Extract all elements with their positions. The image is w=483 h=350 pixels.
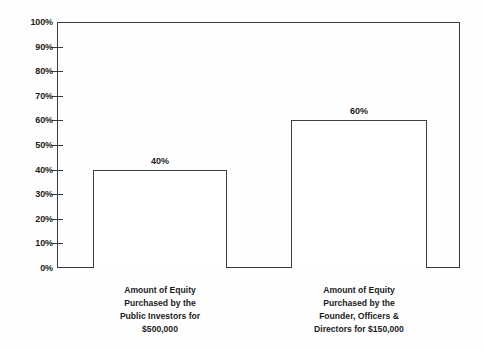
category-label-line: $500,000 [75, 323, 245, 336]
category-label: Amount of EquityPurchased by theFounder,… [273, 284, 445, 336]
category-label: Amount of EquityPurchased by thePublic I… [75, 284, 245, 336]
y-axis-tick-label: 60% [0, 116, 53, 125]
bar [93, 170, 227, 268]
category-label-line: Amount of Equity [273, 284, 445, 297]
y-axis-tick-label: 80% [0, 67, 53, 76]
y-axis-tick-labels: 0%10%20%30%40%50%60%70%80%90%100% [0, 0, 53, 350]
y-axis-tick-label: 70% [0, 91, 53, 100]
bar [291, 120, 427, 268]
y-axis-tick-label: 90% [0, 42, 53, 51]
y-axis-tick-label: 20% [0, 214, 53, 223]
y-axis-tick-label: 50% [0, 141, 53, 150]
y-axis-tick-label: 0% [0, 264, 53, 273]
y-axis-tick-label: 10% [0, 239, 53, 248]
category-label-line: Amount of Equity [75, 284, 245, 297]
category-label-line: Public Investors for [75, 310, 245, 323]
bar-chart: 0%10%20%30%40%50%60%70%80%90%100% 40%Amo… [0, 0, 483, 350]
y-axis-tick-label: 40% [0, 165, 53, 174]
bar-value-label: 60% [291, 106, 427, 116]
y-axis-tick-label: 100% [0, 18, 53, 27]
category-label-line: Directors for $150,000 [273, 323, 445, 336]
bar-value-label: 40% [93, 156, 227, 166]
y-axis-tick-label: 30% [0, 190, 53, 199]
category-label-line: Founder, Officers & [273, 310, 445, 323]
category-label-line: Purchased by the [273, 297, 445, 310]
category-label-line: Purchased by the [75, 297, 245, 310]
